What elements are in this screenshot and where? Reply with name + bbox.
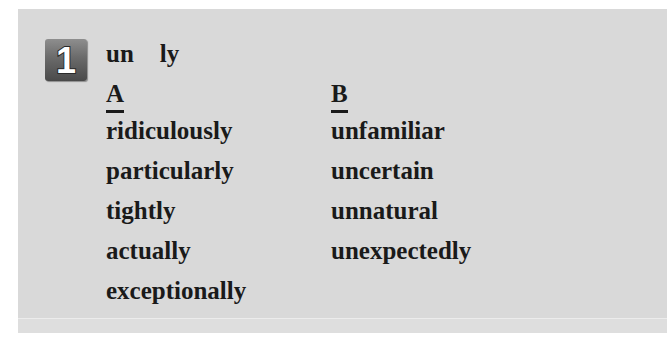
prefix-label: un bbox=[106, 40, 134, 67]
column-b-word: unnatural bbox=[331, 198, 438, 223]
exercise-number: 1 bbox=[56, 43, 76, 79]
suffix-label: ly bbox=[160, 40, 179, 67]
column-b-word: uncertain bbox=[331, 158, 434, 183]
column-a-word: exceptionally bbox=[106, 278, 246, 303]
column-b-heading: B bbox=[331, 81, 348, 106]
column-a-word: tightly bbox=[106, 198, 175, 223]
column-a-word: ridiculously bbox=[106, 118, 232, 143]
affix-prompt: unly bbox=[106, 41, 179, 66]
column-a-word: actually bbox=[106, 238, 191, 263]
exercise-number-badge: 1 bbox=[45, 39, 87, 81]
column-a-heading: A bbox=[106, 81, 124, 106]
column-b-word: unfamiliar bbox=[331, 118, 445, 143]
column-b-word: unexpectedly bbox=[331, 238, 471, 263]
column-a-word: particularly bbox=[106, 158, 234, 183]
panel-bottom-strip bbox=[18, 318, 667, 333]
